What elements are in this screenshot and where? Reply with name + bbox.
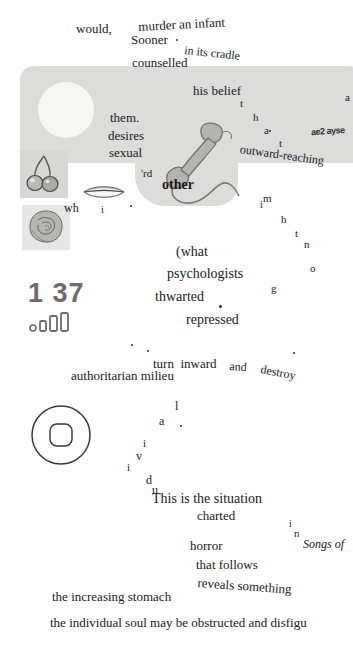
poem-line: sexual	[109, 146, 142, 159]
poem-line: horror	[190, 539, 223, 552]
scattered-letter: t	[295, 228, 298, 239]
poem-line: 'rd	[141, 168, 152, 179]
ink-speck	[219, 305, 222, 308]
signal-bars-icon	[28, 312, 74, 334]
rose-illustration	[26, 208, 66, 246]
poem-line: other	[162, 178, 194, 192]
scattered-letter: i	[127, 462, 130, 473]
scattered-letter: o	[310, 263, 316, 274]
ink-speck	[269, 130, 271, 132]
scattered-letter: h	[281, 214, 287, 225]
ink-speck	[176, 39, 178, 41]
lips-icon	[82, 183, 126, 201]
scattered-letter: t	[279, 138, 282, 149]
poem-line: (what	[176, 245, 208, 259]
ink-speck	[180, 425, 182, 427]
poem-line: and	[229, 360, 247, 373]
poem-line: that follows	[196, 558, 258, 571]
ink-speck	[130, 205, 132, 207]
lips-illustration	[38, 82, 94, 138]
poem-line: This is the situation	[152, 492, 262, 506]
ink-speck	[131, 344, 133, 346]
poem-line: thwarted	[155, 290, 204, 304]
scattered-letter: i	[260, 200, 263, 210]
poem-line: reveals something	[197, 576, 292, 596]
poem-line: charted	[197, 509, 235, 522]
poem-line: counselled	[132, 56, 188, 69]
scattered-letter: v	[136, 450, 142, 462]
poem-line: repressed	[186, 313, 239, 327]
poem-line: destroy	[260, 363, 297, 382]
poem-line: them.	[110, 111, 139, 124]
home-button-icon[interactable]	[30, 404, 92, 466]
scattered-letter: m	[263, 193, 272, 204]
poem-line: Sooner	[131, 33, 168, 46]
poem-line: psychologists	[167, 267, 243, 281]
ink-speck	[147, 350, 149, 352]
scattered-letter: l	[175, 400, 178, 412]
poem-line: the individual soul may be obstructed an…	[50, 616, 307, 629]
poem-line: murder an infant	[138, 15, 225, 33]
scattered-letter: i	[101, 205, 104, 215]
poem-line: wh	[64, 202, 79, 214]
poem-line: the increasing stomach	[52, 590, 171, 603]
poem-line: in its cradle	[184, 44, 241, 62]
cherries-illustration	[24, 152, 64, 194]
scattered-letter: a	[345, 92, 350, 103]
scattered-letter: u	[152, 484, 158, 496]
poem-line: would,	[76, 22, 112, 35]
scattered-letter: h	[253, 112, 259, 123]
scattered-letter: a	[159, 415, 164, 427]
page-number: 1 37	[28, 278, 85, 309]
scattered-letter: t	[240, 98, 243, 109]
page-canvas: 1 37 ae2 ayse would,murder an infantSoon…	[0, 0, 353, 659]
poem-line: desires	[108, 129, 144, 142]
scattered-letter: n	[294, 528, 300, 539]
poem-line: authoritarian milieu	[71, 369, 174, 382]
ink-speck	[293, 352, 295, 354]
scattered-letter: i	[143, 438, 146, 449]
poem-line: his belief	[193, 84, 241, 97]
scattered-letter: n	[304, 239, 310, 250]
scattered-letter: i	[289, 519, 292, 529]
scattered-letter: g	[271, 283, 277, 294]
telephone-handset-illustration	[145, 118, 240, 208]
poem-line: Songs of	[303, 538, 344, 550]
